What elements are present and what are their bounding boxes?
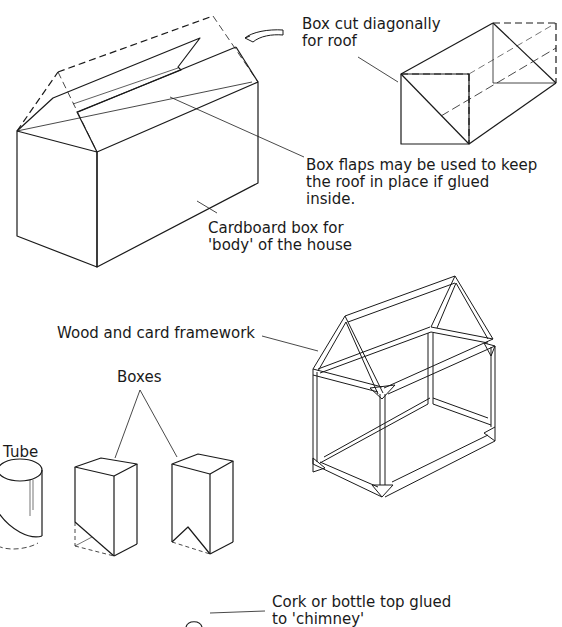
label-roof-cut: Box cut diagonally for roof [302,16,441,50]
box-diagonal-cut [75,458,137,556]
label-boxes: Boxes [117,369,161,386]
label-box-flaps: Box flaps may be used to keep the roof i… [306,157,537,208]
label-tube: Tube [3,444,38,461]
label-chimney: Cork or bottle top glued to 'chimney' [272,594,451,627]
house-construction-diagram [0,0,562,627]
tube-shape [0,459,42,549]
label-framework: Wood and card framework [57,325,255,342]
curved-arrow-icon [245,30,283,42]
cork-chimney-top [186,622,202,627]
wood-frame-house [313,276,495,497]
label-body: Cardboard box for 'body' of the house [208,220,352,254]
box-v-notch [172,454,233,554]
